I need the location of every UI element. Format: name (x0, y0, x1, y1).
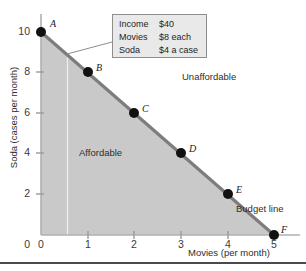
point-label-a: A (50, 18, 56, 29)
legend-value-movies: $8 each (159, 31, 206, 44)
legend-leader-line (67, 42, 112, 54)
legend-value-soda: $4 a case (159, 44, 206, 57)
x-tick-label-2: 2 (124, 238, 144, 250)
data-point-d (176, 148, 186, 158)
y-tick-label-2: 2 (8, 187, 30, 199)
data-point-a (36, 27, 46, 37)
legend-key-movies: Movies (119, 31, 159, 44)
unaffordable-region-label: Unaffordable (182, 71, 236, 82)
budget-line-label: Budget line (236, 203, 284, 214)
legend-row-movies: Movies $8 each (119, 31, 206, 44)
point-label-c: C (142, 103, 149, 114)
point-label-d: D (189, 143, 196, 154)
legend-key-income: Income (119, 18, 159, 31)
x-tick-label-1: 1 (78, 238, 98, 250)
point-label-f: F (281, 224, 287, 235)
legend-row-income: Income $40 (119, 18, 206, 31)
data-point-b (83, 67, 93, 77)
income-prices-info-box: Income $40 Movies $8 each Soda $4 a case (112, 14, 207, 58)
data-point-e (223, 189, 233, 199)
legend-key-soda: Soda (119, 44, 159, 57)
legend-row-soda: Soda $4 a case (119, 44, 206, 57)
affordable-region-label: Affordable (79, 147, 122, 158)
point-label-e: E (236, 184, 242, 195)
y-tick-label-10: 10 (8, 25, 30, 37)
x-axis-title: Movies (per month) (188, 247, 270, 258)
y-tick-label-0: 0 (8, 238, 30, 250)
bottom-divider-rule (0, 262, 306, 264)
legend-value-income: $40 (159, 18, 206, 31)
x-tick-label-0: 0 (31, 238, 51, 250)
budget-line-chart: 10 8 6 4 2 0 0 1 2 3 4 5 Soda (cases per… (0, 0, 306, 271)
y-axis-title: Soda (cases per month) (8, 58, 19, 178)
point-label-b: B (96, 62, 102, 73)
data-point-c (129, 108, 139, 118)
